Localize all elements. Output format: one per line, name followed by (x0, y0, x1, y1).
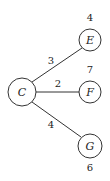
node-e-label: E (85, 34, 94, 47)
node-f: 7 F (79, 64, 101, 104)
node-c-label: C (18, 86, 27, 99)
node-g-label: G (86, 140, 95, 153)
node-f-value: 7 (87, 64, 93, 75)
tree-diagram: 3 2 4 C 4 E 7 F G 6 (0, 0, 110, 181)
node-f-label: F (85, 86, 94, 99)
node-c: C (8, 78, 36, 106)
edge-c-g (32, 102, 81, 137)
edge-weight-c-e: 3 (48, 55, 54, 66)
edge-weight-c-g: 4 (48, 119, 54, 130)
edge-weight-c-f: 2 (55, 78, 61, 89)
node-e-value: 4 (87, 12, 93, 23)
node-g: G 6 (78, 134, 102, 173)
node-g-value: 6 (87, 162, 93, 173)
node-e: 4 E (79, 12, 101, 52)
